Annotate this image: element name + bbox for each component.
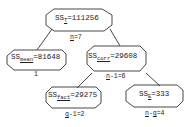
df-value: =4: [157, 110, 165, 117]
node-corr-label: SScorr=29608: [88, 53, 137, 61]
node-error-df: n-g=4: [145, 111, 165, 118]
df-value: -1=2: [69, 111, 85, 118]
node-fact-df: g-1=2: [65, 112, 85, 119]
value: =29275: [70, 91, 97, 99]
ss-prefix: SS: [11, 53, 20, 61]
value: =29608: [110, 52, 137, 60]
subscript: mean: [20, 56, 33, 63]
ss-prefix: SS: [55, 14, 64, 22]
subscript: T: [64, 17, 67, 24]
value: =81648: [33, 53, 60, 61]
ss-prefix: SS: [48, 91, 57, 99]
ss-prefix: SS: [139, 90, 148, 98]
node-total-label: SST=111256: [55, 15, 99, 23]
node-total-df: n=7: [70, 35, 82, 42]
value: =333: [151, 90, 169, 98]
node-error-label: SSE=333: [139, 91, 169, 99]
subscript: fact: [57, 94, 70, 101]
node-mean-df: 1: [34, 72, 38, 79]
df-value: -1=6: [110, 73, 126, 80]
node-mean-label: SSmean=81648: [11, 54, 60, 62]
ss-prefix: SS: [88, 52, 97, 60]
value: =111256: [67, 14, 99, 22]
node-fact-label: SSfact=29275: [48, 92, 97, 100]
subscript: corr: [97, 55, 110, 62]
subscript: E: [148, 93, 151, 100]
df-value: =7: [74, 34, 82, 41]
node-corr-df: n-1=6: [106, 74, 126, 81]
